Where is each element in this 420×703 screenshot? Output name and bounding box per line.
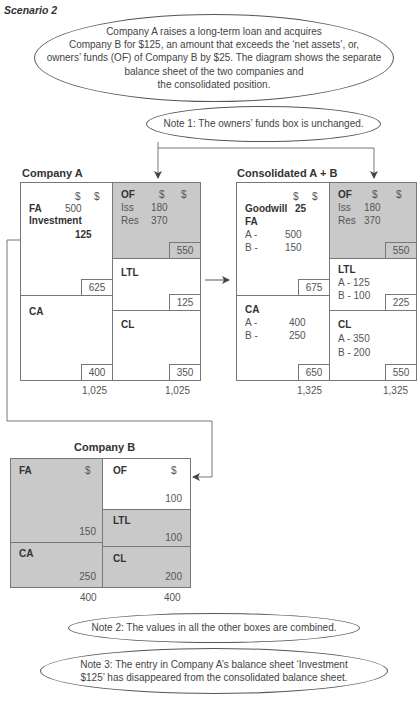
company-b-title: Company B xyxy=(74,441,135,453)
of-label: OF xyxy=(121,189,135,200)
currency-label: $ xyxy=(312,191,318,202)
currency-label: $ xyxy=(75,191,81,202)
fa-b-label: B - xyxy=(245,242,258,253)
goodwill-value: 25 xyxy=(295,203,306,214)
of-label: OF xyxy=(113,465,127,476)
currency-label: $ xyxy=(171,465,177,476)
currency-label: $ xyxy=(372,189,378,200)
company-b-of-box: OF $ 100 xyxy=(102,458,191,510)
company-a-total-assets: 1,025 xyxy=(82,385,107,396)
iss-value: 180 xyxy=(364,202,381,213)
intro-ellipse: Company A raises a long-term loan and ac… xyxy=(34,14,394,102)
fa-label: FA xyxy=(19,465,32,476)
investment-label: Investment xyxy=(29,215,82,226)
cl-label: CL xyxy=(121,319,134,330)
currency-label: $ xyxy=(85,465,91,476)
ca-value: 250 xyxy=(79,571,96,582)
ca-a-label: A - xyxy=(245,317,257,328)
company-b-balance-sheet: FA $ 150 CA 250 OF $ 100 LTL 100 CL 200 xyxy=(10,458,190,587)
company-a-balance-sheet: $ $ FA 500 Investment 125 625 CA 400 OF … xyxy=(20,182,200,380)
ca-label: CA xyxy=(19,548,33,559)
ca-label: CA xyxy=(245,304,259,315)
note2-ellipse: Note 2: The values in all the other boxe… xyxy=(68,613,360,643)
intro-line: owners’ funds (OF) of Company B by $25. … xyxy=(47,51,382,64)
cl-total: 550 xyxy=(385,364,417,381)
cl-b-value: B - 200 xyxy=(338,347,370,358)
fa-a-label: A - xyxy=(245,229,257,240)
note2-text: Note 2: The values in all the other boxe… xyxy=(92,621,337,634)
iss-value: 180 xyxy=(151,202,168,213)
ca-total: 650 xyxy=(298,364,330,381)
ltl-total: 225 xyxy=(385,294,417,311)
intro-line: balance sheet of the two companies and xyxy=(47,65,382,78)
consolidated-title: Consolidated A + B xyxy=(237,167,337,179)
of-label: OF xyxy=(338,189,352,200)
note3-ellipse: Note 3: The entry in Company A’s balance… xyxy=(40,648,388,694)
investment-value: 125 xyxy=(75,229,92,240)
currency-label: $ xyxy=(293,191,299,202)
currency-label: $ xyxy=(181,189,187,200)
currency-label: $ xyxy=(159,189,165,200)
note1-ellipse: Note 1: The owners’ funds box is unchang… xyxy=(146,106,381,142)
consolidated-cl-box: CL A - 350 B - 200 550 xyxy=(329,310,417,381)
scenario-label: Scenario 2 xyxy=(4,4,57,16)
res-label: Res xyxy=(338,215,356,226)
consolidated-fa-box: $ $ Goodwill 25 FA A - 500 B - 150 675 xyxy=(236,182,330,296)
ltl-label: LTL xyxy=(338,264,356,275)
company-b-cl-box: CL 200 xyxy=(102,546,191,588)
note1-text: Note 1: The owners’ funds box is unchang… xyxy=(163,117,363,130)
consolidated-balance-sheet: $ $ Goodwill 25 FA A - 500 B - 150 675 C… xyxy=(236,182,416,380)
fa-a-value: 500 xyxy=(285,229,302,240)
company-b-ca-box: CA 250 xyxy=(10,542,103,588)
company-a-fa-box: $ $ FA 500 Investment 125 625 xyxy=(20,182,113,296)
company-a-cl-box: CL 350 xyxy=(112,310,201,381)
consolidated-total-liabilities: 1,325 xyxy=(383,385,408,396)
currency-label: $ xyxy=(396,189,402,200)
goodwill-label: Goodwill xyxy=(245,203,287,214)
iss-label: Iss xyxy=(338,202,351,213)
consolidated-ca-box: CA A - 400 B - 250 650 xyxy=(236,295,330,381)
company-b-total-assets: 400 xyxy=(80,592,97,603)
of-value: 100 xyxy=(165,493,182,504)
intro-line: Company A raises a long-term loan and ac… xyxy=(47,25,382,38)
fa-label: FA xyxy=(29,203,42,214)
fa-value: 500 xyxy=(65,203,82,214)
consolidated-of-box: OF $ $ Iss 180 Res 370 550 xyxy=(329,182,417,259)
company-a-ca-box: CA 400 xyxy=(20,295,113,381)
ltl-value: 100 xyxy=(165,532,182,543)
fa-value: 150 xyxy=(79,526,96,537)
ltl-label: LTL xyxy=(121,267,139,278)
intro-text: Company A raises a long-term loan and ac… xyxy=(47,25,382,91)
note3-text: Note 3: The entry in Company A’s balance… xyxy=(80,658,347,685)
ltl-b-value: B - 100 xyxy=(338,290,370,301)
res-value: 370 xyxy=(364,215,381,226)
ca-b-label: B - xyxy=(245,330,258,341)
cl-label: CL xyxy=(113,553,126,564)
ltl-total: 125 xyxy=(169,294,201,311)
fa-b-value: 150 xyxy=(285,242,302,253)
cl-label: CL xyxy=(338,319,351,330)
consolidated-ltl-box: LTL A - 125 B - 100 225 xyxy=(329,258,417,311)
res-value: 370 xyxy=(151,215,168,226)
of-total: 550 xyxy=(169,242,201,259)
fa-total: 675 xyxy=(298,279,330,296)
company-a-title: Company A xyxy=(22,167,83,179)
ltl-label: LTL xyxy=(113,515,131,526)
ca-total: 400 xyxy=(81,364,113,381)
intro-line: the consolidated position. xyxy=(47,78,382,91)
fa-total: 625 xyxy=(81,279,113,296)
cl-total: 350 xyxy=(169,364,201,381)
ca-label: CA xyxy=(29,306,43,317)
fa-label: FA xyxy=(245,216,258,227)
company-a-ltl-box: LTL 125 xyxy=(112,258,201,311)
company-a-total-liabilities: 1,025 xyxy=(165,385,190,396)
iss-label: Iss xyxy=(121,202,134,213)
cl-a-value: A - 350 xyxy=(338,333,370,344)
consolidated-total-assets: 1,325 xyxy=(297,385,322,396)
currency-label: $ xyxy=(94,191,100,202)
company-b-fa-box: FA $ 150 xyxy=(10,458,103,543)
res-label: Res xyxy=(121,215,139,226)
cl-value: 200 xyxy=(165,571,182,582)
ca-a-value: 400 xyxy=(289,317,306,328)
company-b-ltl-box: LTL 100 xyxy=(102,509,191,547)
